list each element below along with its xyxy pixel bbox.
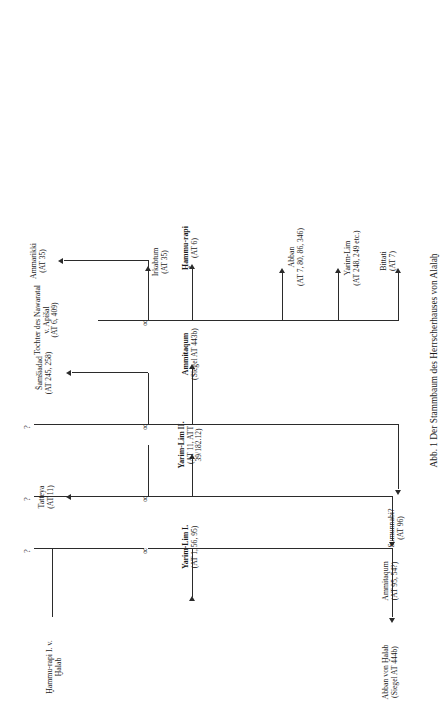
line-to-bittati (398, 271, 399, 321)
arrow-to-yarimlim-son (335, 268, 341, 273)
arrow-to-samsiadad (66, 370, 71, 376)
node-ref: (AT 35) (39, 221, 48, 301)
node-ref-line2: 39/182.12) (195, 397, 204, 493)
line-marriage4-children (148, 320, 398, 321)
node-ref: (AT 35) (161, 227, 170, 297)
node-bittati: Bittati (AT 7) (380, 229, 397, 293)
node-unknown-spouse-1: ? (23, 549, 31, 553)
node-ref: (AT 6, 409) (51, 257, 60, 383)
node-ref: (AT 7) (389, 229, 398, 293)
node-hammurapi-1: Ḫammu-rapi I. v. Ḫalab (46, 619, 63, 715)
line-to-yarimlim-son (338, 271, 339, 321)
node-ref: (AT 1, 56, 95) (191, 501, 200, 593)
node-yarimlim-son: Yarim-Lim (AT 248, 249 etc.) (344, 203, 361, 313)
line-hammurapi1-out (52, 549, 53, 617)
node-ammitaqum-b: Ammitaqum (Siegel AT 443b) (182, 301, 199, 407)
node-ref: (AT 96) (397, 493, 406, 563)
node-irkabtum: Irkabtum (AT 35) (152, 227, 169, 297)
node-ref: (Siegel AT 444b) (391, 623, 400, 721)
node-ref: (AT 11) (47, 461, 56, 533)
line-to-abban-son (282, 271, 283, 321)
node-ref: (AT 7, 80, 86, 346) (297, 205, 306, 309)
arrow-to-abban-son (279, 268, 285, 273)
node-label-line2: Ḫalab (55, 619, 64, 715)
node-tatteya: Tatteya (AT 11) (38, 461, 55, 533)
node-yarimlim-2: Yarim-Lim II. (AT 11, ATT 39/182.12) (178, 397, 204, 493)
line-to-irkabtum (148, 269, 149, 321)
line-to-tatteya-stem (72, 496, 148, 497)
node-sumunnabi: Sumunnabi? (AT 96) (388, 493, 405, 563)
figure-caption-text: Abb. 1 Der Stammbaum des Herrscherhauses… (423, 254, 444, 468)
arrow-to-tatteya (66, 494, 71, 500)
line-unknown1-down (34, 548, 144, 549)
node-ammarikki: Ammarikki (AT 35) (30, 221, 47, 301)
node-ref: (AT 6) (191, 205, 200, 291)
node-unknown-spouse-3: ? (23, 425, 31, 429)
node-hammurapi-son: Ḫammu-rapi (AT 6) (182, 205, 199, 291)
node-unknown-spouse-2: ? (23, 497, 31, 501)
line-marriage3-bus (148, 373, 149, 425)
line-marriage2-bus (148, 445, 149, 497)
node-yarimlim-1: Yarim-Lim I. (AT 1, 56, 95) (182, 501, 199, 593)
arrow-to-ammarikki (58, 258, 63, 264)
figure-caption: Abb. 1 Der Stammbaum des Herrscherhauses… (423, 0, 444, 721)
node-abban-son: Abban (AT 7, 80, 86, 346) (288, 205, 305, 309)
arrow-to-yarimlim1 (189, 596, 195, 601)
line-to-ammarikki-stem (64, 260, 149, 261)
line-to-samsiadad-stem (72, 372, 148, 373)
node-abban-von-halab: Abban von Ḫalab (Siegel AT 444b) (382, 623, 399, 721)
node-ref: (AT 248, 249 etc.) (353, 203, 362, 313)
line-marriage3-children (148, 424, 398, 425)
line-marriage2-children (148, 496, 392, 497)
line-to-sumunnabi (398, 424, 399, 489)
